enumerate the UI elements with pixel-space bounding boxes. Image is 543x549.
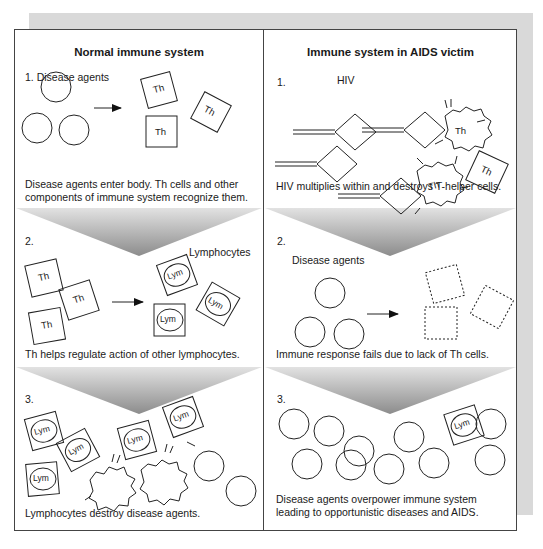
caption-line: Disease agents enter body. Th cells and … xyxy=(25,178,248,191)
caption-line: leading to opportunistic diseases and AI… xyxy=(276,506,479,519)
lym-cell-label: Lym xyxy=(160,314,176,324)
right-panel-3-caption: Disease agents overpower immune system l… xyxy=(276,493,479,519)
step-divider-2-left xyxy=(16,367,262,414)
disease-agents-label: Disease agents xyxy=(292,254,364,266)
left-panel-1-caption: Disease agents enter body. Th cells and … xyxy=(25,178,248,204)
left-panel-2-caption: Th helps regulate action of other lympho… xyxy=(25,348,240,361)
lym-cell-label: Lym xyxy=(33,473,49,483)
step-divider-2-right xyxy=(265,367,516,414)
th-cell-label: Th xyxy=(455,125,466,136)
th-cell-label: Th xyxy=(40,318,53,331)
right-step-2-label: 2. xyxy=(277,235,286,247)
hiv-label: HIV xyxy=(337,74,355,86)
right-step-1-label: 1. xyxy=(277,76,286,88)
right-panel-1-caption: HIV multiplies within and destroys T-hel… xyxy=(276,180,501,193)
left-step-2-label: 2. xyxy=(25,235,34,247)
right-step-3-label: 3. xyxy=(277,393,286,405)
diagram-frame: Normal immune system Immune system in AI… xyxy=(14,29,517,531)
right-panel-2-caption: Immune response fails due to lack of Th … xyxy=(276,348,489,361)
caption-line: Disease agents overpower immune system xyxy=(276,493,479,506)
left-step-1-label: 1. Disease agents xyxy=(25,71,109,83)
caption-line: components of immune system recognize th… xyxy=(25,191,248,204)
left-panel-3-caption: Lymphocytes destroy disease agents. xyxy=(25,507,200,520)
th-cell-label: Th xyxy=(155,126,166,137)
step-divider-1-right xyxy=(265,208,516,256)
left-step-3-label: 3. xyxy=(25,393,34,405)
lymphocytes-label: Lymphocytes xyxy=(189,246,250,258)
diagram-artwork xyxy=(15,30,518,532)
